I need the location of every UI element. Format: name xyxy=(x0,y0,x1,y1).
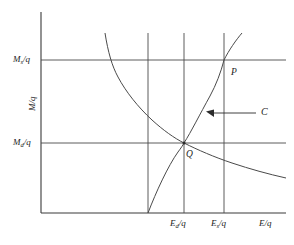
falling-curve xyxy=(105,33,286,178)
y-tick-label-ms-over-q: Ms/q xyxy=(13,55,30,64)
point-q-marker xyxy=(183,142,186,145)
curve-c-arrow-head xyxy=(206,110,214,118)
point-label-p: P xyxy=(231,68,237,78)
x-tick-label-ed-over-q: Ed/q xyxy=(170,219,186,228)
curve-label-c: C xyxy=(261,107,268,117)
x-tick-label-es-over-q: Es/q xyxy=(211,219,226,228)
y-tick-label-md-over-q: Md/q xyxy=(13,138,31,147)
plot-canvas xyxy=(0,0,294,245)
economics-diagram-figure: Ms/q Md/q M/q Ed/q Es/q E/q P Q C xyxy=(0,0,294,245)
x-axis-title: E/q xyxy=(259,219,272,228)
point-label-q: Q xyxy=(186,150,193,160)
y-axis-title: M/q xyxy=(28,97,37,112)
